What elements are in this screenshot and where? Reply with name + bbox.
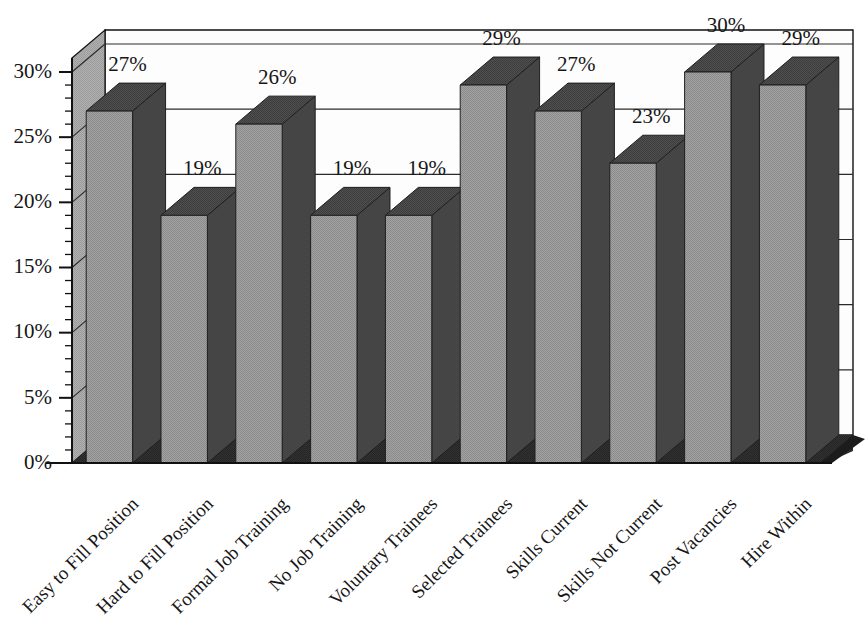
- bar-value-label: 19%: [183, 156, 222, 180]
- bar-value-label: 29%: [482, 26, 521, 50]
- bar-front-face: [759, 85, 805, 463]
- bar-value-label: 29%: [782, 26, 821, 50]
- bar: [759, 57, 838, 463]
- bar-value-label: 26%: [258, 65, 297, 89]
- y-axis-tick-label: 0%: [24, 450, 52, 474]
- bar-value-label: 23%: [632, 104, 671, 128]
- bar-value-label: 19%: [408, 156, 447, 180]
- bar: [236, 96, 315, 463]
- y-axis-tick-label: 20%: [14, 189, 53, 213]
- bar-front-face: [460, 85, 506, 463]
- bar-value-label: 30%: [707, 13, 746, 37]
- bar-value-label: 27%: [557, 52, 596, 76]
- bar: [535, 83, 614, 463]
- y-axis-tick-label: 5%: [24, 385, 52, 409]
- bar-front-face: [685, 72, 731, 463]
- bar-value-label: 27%: [108, 52, 147, 76]
- bar-front-face: [161, 215, 207, 463]
- bar-front-face: [86, 111, 132, 463]
- y-axis-tick-label: 10%: [14, 319, 53, 343]
- bar-front-face: [610, 163, 656, 463]
- bar: [86, 83, 165, 463]
- category-axis-label: Hire Within: [737, 493, 816, 572]
- bar: [311, 187, 390, 463]
- bar: [161, 187, 240, 463]
- chart-canvas: 0%5%10%15%20%25%30% 27%19%26%19%19%29%27…: [0, 0, 866, 624]
- bar-chart: 0%5%10%15%20%25%30% 27%19%26%19%19%29%27…: [0, 0, 866, 624]
- y-axis-tick-label: 25%: [14, 124, 53, 148]
- bar-front-face: [385, 215, 431, 463]
- category-axis-labels: Easy to Fill PositionHard to Fill Positi…: [18, 492, 816, 617]
- bar: [610, 135, 689, 463]
- bar: [460, 57, 539, 463]
- y-axis-tick-labels: 0%5%10%15%20%25%30%: [14, 59, 53, 474]
- bar: [385, 187, 464, 463]
- bar: [685, 44, 764, 463]
- y-axis-tick-label: 15%: [14, 254, 53, 278]
- bar-value-label: 19%: [333, 156, 372, 180]
- bar-front-face: [311, 215, 357, 463]
- y-axis-tick-label: 30%: [14, 59, 53, 83]
- bar-front-face: [236, 124, 282, 463]
- bar-side-face: [806, 57, 839, 463]
- bar-front-face: [535, 111, 581, 463]
